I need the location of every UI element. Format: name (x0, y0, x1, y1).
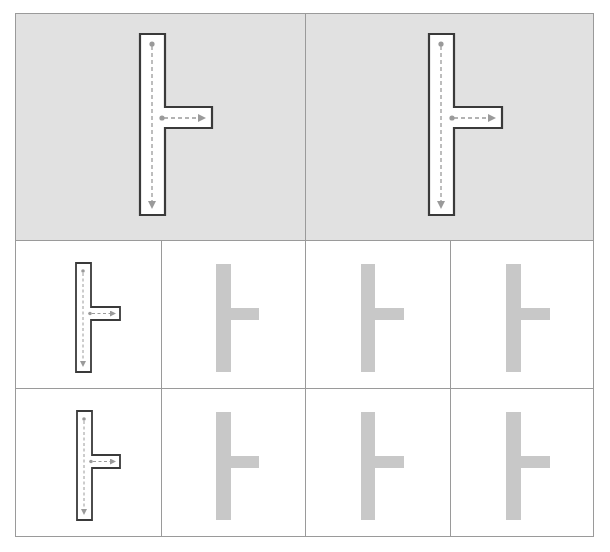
t-shape-solid-r2c4 (506, 264, 550, 372)
t-shape-solid-r3c4 (506, 412, 550, 520)
t-shape-outlined-small-r3 (77, 411, 120, 520)
diagram-canvas (0, 0, 610, 552)
t-shape-solid-r3c2 (216, 412, 259, 520)
t-shape-solid-r2c2 (216, 264, 259, 372)
t-shape-outlined-large-1 (140, 34, 212, 215)
t-shape-solid-r3c3 (361, 412, 404, 520)
t-shape-outlined-small-r2 (76, 263, 120, 372)
t-shape-solid-r2c3 (361, 264, 404, 372)
t-shape-outlined-large-2 (429, 34, 502, 215)
